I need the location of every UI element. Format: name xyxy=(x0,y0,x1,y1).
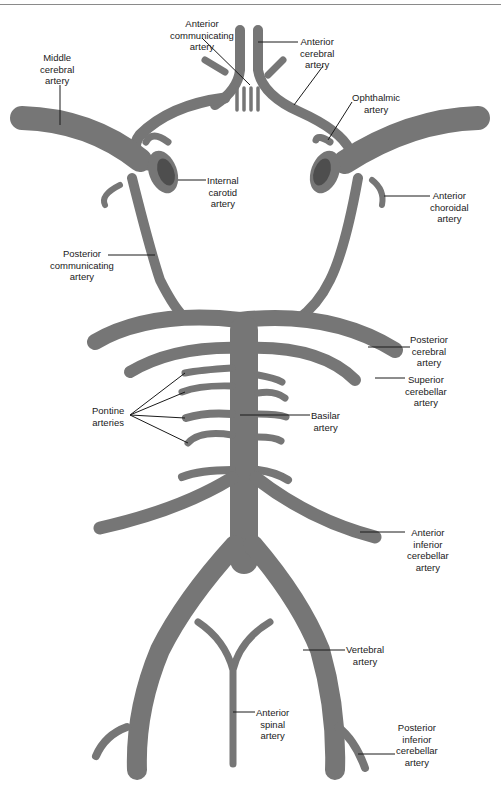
left-posterior-inferior-cerebellar xyxy=(96,727,127,756)
right-middle-cerebral-artery xyxy=(345,118,478,162)
label-superior-cerebellar-artery: Superior cerebellar artery xyxy=(405,374,447,409)
left-middle-cerebral-artery xyxy=(22,118,140,160)
label-basilar-artery: Basilar artery xyxy=(311,410,340,433)
label-anterior-inferior-cerebellar-artery: Anterior inferior cerebellar artery xyxy=(407,527,449,573)
label-vertebral-artery: Vertebral artery xyxy=(346,644,384,667)
right-anterior-choroidal xyxy=(372,180,383,205)
left-posterior-communicating xyxy=(132,178,187,320)
label-anterior-communicating-artery: Anterior communicating artery xyxy=(170,18,234,53)
label-ophthalmic-artery: Ophthalmic artery xyxy=(352,92,400,115)
right-anterior-inferior-cerebellar xyxy=(256,478,375,537)
left-anterior-inferior-cerebellar xyxy=(100,478,232,528)
left-ophthalmic xyxy=(146,136,168,142)
label-anterior-choroidal-artery: Anterior choroidal artery xyxy=(430,190,469,225)
left-vertebral-artery xyxy=(137,545,235,770)
label-posterior-cerebral-artery: Posterior cerebral artery xyxy=(410,334,448,369)
label-anterior-cerebral-artery: Anterior cerebral artery xyxy=(300,36,334,71)
label-pontine-arteries: Pontine arteries xyxy=(92,405,124,428)
label-anterior-spinal-artery: Anterior spinal artery xyxy=(256,707,289,742)
right-posterior-communicating xyxy=(297,178,358,320)
left-anterior-choroidal xyxy=(104,185,120,205)
label-middle-cerebral-artery: Middle cerebral artery xyxy=(40,52,74,87)
anterior-spinal-artery xyxy=(198,622,270,764)
label-posterior-communicating-artery: Posterior communicating artery xyxy=(50,248,114,283)
label-posterior-inferior-cerebellar-artery: Posterior inferior cerebellar artery xyxy=(396,722,438,768)
label-internal-carotid-artery: Internal carotid artery xyxy=(207,175,239,210)
